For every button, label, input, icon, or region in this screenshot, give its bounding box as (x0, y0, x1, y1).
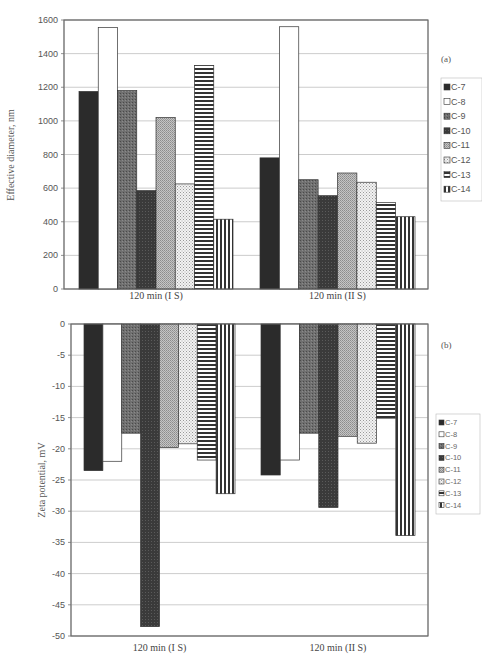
bar-c-11 (338, 173, 357, 289)
y-tick-label: 800 (43, 150, 58, 160)
legend-swatch-c-12 (444, 157, 450, 163)
y-tick-label: -10 (52, 381, 65, 391)
legend-swatch-c-14 (439, 503, 444, 508)
legend-label: C-13 (445, 489, 461, 498)
y-tick-label: 1400 (38, 49, 58, 59)
legend: C-7C-8C-9C-10C-11C-12C-13C-14 (436, 414, 480, 514)
bar-c-13 (197, 324, 216, 460)
bar-c-13 (376, 202, 395, 289)
legend-swatch-c-13 (439, 491, 444, 496)
bar-c-10 (318, 196, 337, 289)
bar-c-10 (319, 324, 338, 507)
bar-c-11 (156, 118, 175, 289)
bar-c-7 (261, 324, 280, 475)
legend-label: C-7 (451, 82, 466, 92)
bar-c-12 (178, 324, 197, 444)
y-tick-label: 1000 (38, 116, 58, 126)
legend-label: C-14 (451, 184, 471, 194)
legend-label: C-13 (451, 170, 471, 180)
bar-c-11 (338, 324, 357, 436)
y-tick-label: 1600 (38, 15, 58, 25)
bar-c-14 (396, 324, 415, 536)
legend-swatch-c-11 (444, 142, 450, 148)
bar-c-7 (84, 324, 103, 471)
legend-swatch-c-8 (439, 432, 444, 437)
bar-c-14 (214, 219, 233, 289)
legend-label: C-7 (445, 418, 457, 427)
legend-label: C-11 (451, 140, 470, 150)
y-tick-label: 0 (53, 284, 58, 294)
bar-c-12 (175, 184, 194, 289)
legend-label: C-8 (445, 430, 457, 439)
legend-label: C-9 (445, 442, 457, 451)
y-tick-label: 200 (43, 250, 58, 260)
x-category-label: 120 min (I S) (129, 290, 183, 302)
bar-c-8 (98, 28, 117, 289)
legend-swatch-c-9 (444, 113, 450, 119)
y-tick-label: -35 (52, 537, 65, 547)
legend-swatch-c-7 (444, 84, 450, 90)
legend-label: C-12 (451, 155, 471, 165)
legend-swatch-c-10 (439, 455, 444, 460)
x-category-label: 120 min (II S) (310, 642, 367, 654)
legend-label: C-10 (445, 453, 461, 462)
legend-label: C-12 (445, 477, 461, 486)
legend-label: C-9 (451, 111, 466, 121)
figure-canvas: 02004006008001000120014001600120 min (I … (0, 0, 482, 659)
bar-c-9 (300, 324, 319, 433)
y-tick-label: -30 (52, 506, 65, 516)
legend-swatch-c-13 (444, 172, 450, 178)
chart-zeta-potential: 0-5-10-15-20-25-30-35-40-45-50120 min (I… (36, 319, 480, 654)
y-tick-label: 1200 (38, 82, 58, 92)
bar-c-7 (79, 91, 98, 289)
y-axis-label: Zeta potential, mV (36, 442, 47, 518)
y-tick-label: -45 (52, 600, 65, 610)
bar-c-7 (260, 158, 279, 289)
y-tick-label: -40 (52, 569, 65, 579)
y-tick-label: 0 (60, 319, 65, 329)
bar-c-11 (160, 324, 179, 448)
legend-label: C-10 (451, 126, 471, 136)
y-tick-label: 400 (43, 217, 58, 227)
legend-swatch-c-14 (444, 186, 450, 192)
y-axis-label: Effective diameter, nm (5, 109, 16, 201)
legend-swatch-c-11 (439, 467, 444, 472)
bar-c-10 (137, 191, 156, 289)
legend-label: C-14 (445, 501, 461, 510)
bar-c-12 (357, 324, 376, 443)
x-category-label: 120 min (II S) (309, 290, 366, 302)
bar-c-8 (280, 324, 299, 460)
legend-swatch-c-8 (444, 99, 450, 105)
y-tick-label: -15 (52, 413, 65, 423)
bar-c-13 (195, 65, 214, 289)
panel-label: (b) (441, 340, 452, 350)
legend-box (436, 414, 480, 514)
bar-c-8 (103, 324, 122, 461)
legend-swatch-c-7 (439, 420, 444, 425)
bar-c-13 (377, 324, 396, 418)
bar-c-14 (396, 217, 415, 289)
legend-label: C-11 (445, 465, 461, 474)
legend: C-7C-8C-9C-10C-11C-12C-13C-14 (441, 78, 482, 201)
panel-label: (a) (441, 54, 451, 64)
y-tick-label: -20 (52, 444, 65, 454)
legend-label: C-8 (451, 97, 466, 107)
y-tick-label: -5 (57, 350, 65, 360)
chart-effective-diameter: 02004006008001000120014001600120 min (I … (5, 15, 482, 302)
bar-c-14 (216, 324, 235, 494)
y-tick-label: -25 (52, 475, 65, 485)
bar-c-8 (279, 27, 298, 289)
bar-c-9 (122, 324, 141, 433)
y-tick-label: 600 (43, 183, 58, 193)
legend-swatch-c-9 (439, 444, 444, 449)
bar-c-9 (299, 180, 318, 289)
x-category-label: 120 min (I S) (133, 642, 187, 654)
y-tick-label: -50 (52, 631, 65, 641)
legend-swatch-c-10 (444, 128, 450, 134)
bar-c-9 (118, 91, 137, 289)
bar-c-10 (141, 324, 160, 627)
legend-swatch-c-12 (439, 479, 444, 484)
bar-c-12 (357, 182, 376, 289)
